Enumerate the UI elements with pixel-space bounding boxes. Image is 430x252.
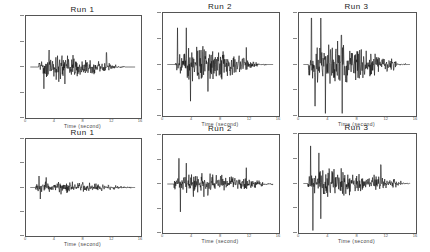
plot-area (25, 15, 142, 119)
plot-area (25, 138, 142, 237)
y-tick (293, 158, 297, 159)
y-tick (293, 207, 297, 208)
plot-area (298, 12, 417, 117)
y-tick (20, 162, 24, 163)
chart-title: Run 1 (5, 5, 160, 14)
waveform-trace (163, 13, 279, 116)
y-tick (20, 66, 24, 67)
waveform-trace (26, 139, 141, 236)
waveform-trace (163, 135, 279, 233)
y-tick (157, 38, 161, 39)
y-tick (157, 12, 161, 13)
chart-title: Run 2 (142, 2, 298, 11)
y-tick (20, 187, 24, 188)
waveform-trace (299, 13, 416, 116)
y-tick (157, 159, 161, 160)
chart-panel: Run 30481216Time (second) (278, 0, 430, 129)
y-tick (157, 64, 161, 65)
y-tick (293, 89, 297, 90)
y-tick (293, 133, 297, 134)
chart-title: Run 1 (5, 128, 160, 137)
plot-area (162, 12, 280, 117)
plot-area (298, 133, 417, 234)
y-tick (20, 41, 24, 42)
chart-title: Run 3 (278, 2, 430, 11)
y-tick (293, 12, 297, 13)
y-tick (157, 208, 161, 209)
y-tick (20, 138, 24, 139)
y-tick (20, 15, 24, 16)
y-tick (157, 134, 161, 135)
waveform-trace (299, 134, 416, 233)
chart-title: Run 3 (278, 123, 430, 132)
y-tick (157, 89, 161, 90)
y-tick (20, 92, 24, 93)
chart-panel: Run 20481216Time (second) (142, 122, 298, 246)
waveform-trace (26, 16, 141, 118)
chart-panel: Run 10481216Time (second) (5, 126, 160, 249)
y-tick (293, 64, 297, 65)
chart-panel: Run 20481216Time (second) (142, 0, 298, 129)
plot-area (162, 134, 280, 234)
x-axis-label: Time (second) (142, 238, 298, 244)
chart-panel: Run 30481216Time (second) (278, 121, 430, 246)
y-tick (20, 211, 24, 212)
y-tick (293, 38, 297, 39)
chart-panel: Run 10481216Time (second) (5, 3, 160, 131)
x-axis-label: Time (second) (278, 238, 430, 244)
y-tick (293, 183, 297, 184)
y-tick (157, 183, 161, 184)
chart-title: Run 2 (142, 124, 298, 133)
x-axis-label: Time (second) (5, 241, 160, 247)
